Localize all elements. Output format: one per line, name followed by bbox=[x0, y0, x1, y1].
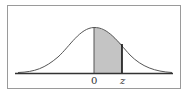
tick-label-z: z bbox=[120, 76, 125, 86]
shaded-area bbox=[94, 28, 122, 74]
normal-curve-plot bbox=[0, 0, 195, 93]
tick-label-zero: 0 bbox=[91, 76, 97, 86]
